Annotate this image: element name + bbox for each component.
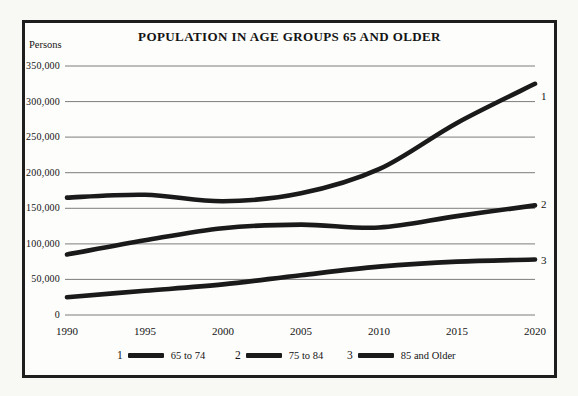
x-tick-label: 1990: [42, 325, 92, 337]
x-tick-label: 1995: [120, 325, 170, 337]
y-tick-label: 250,000: [12, 131, 60, 142]
y-tick-label: 300,000: [12, 96, 60, 107]
chart-title: POPULATION IN AGE GROUPS 65 AND OLDER: [22, 29, 557, 45]
x-tick-label: 2015: [432, 325, 482, 337]
series-end-label-3: 3: [541, 254, 547, 266]
legend-item-1: 165 to 74: [117, 348, 205, 362]
x-tick-label: 2005: [276, 325, 326, 337]
legend-label: 65 to 74: [171, 350, 205, 361]
legend-line-swatch-icon: [358, 353, 394, 358]
legend-label: 75 to 84: [289, 350, 323, 361]
x-tick-label: 2000: [198, 325, 248, 337]
legend-line-swatch-icon: [246, 353, 282, 358]
legend-number: 2: [235, 349, 241, 361]
legend-number: 3: [347, 349, 353, 361]
y-tick-label: 50,000: [12, 273, 60, 284]
y-tick-label: 0: [12, 309, 60, 320]
series-end-label-2: 2: [541, 198, 547, 210]
legend-item-2: 275 to 84: [235, 348, 323, 362]
y-axis-unit-label: Persons: [29, 39, 62, 50]
x-tick-label: 2020: [510, 325, 560, 337]
series-end-label-1: 1: [541, 90, 547, 102]
y-tick-label: 350,000: [12, 60, 60, 71]
y-tick-label: 200,000: [12, 167, 60, 178]
legend-label: 85 and Older: [401, 350, 456, 361]
y-tick-label: 150,000: [12, 202, 60, 213]
figure-page: POPULATION IN AGE GROUPS 65 AND OLDER Pe…: [0, 0, 578, 396]
legend-line-swatch-icon: [128, 353, 164, 358]
legend-item-3: 385 and Older: [347, 348, 456, 362]
x-tick-label: 2010: [354, 325, 404, 337]
y-tick-label: 100,000: [12, 238, 60, 249]
legend-number: 1: [117, 349, 123, 361]
